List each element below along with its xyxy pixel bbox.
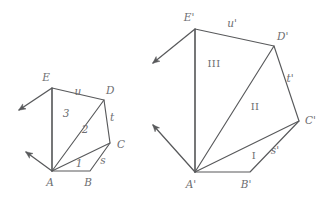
left-pentagon-group: A B C D E u t s 1 2 3 — [19, 71, 125, 188]
right-vertex-label-Cp: C' — [305, 114, 316, 126]
left-region-label-3: 3 — [63, 107, 70, 119]
right-vertex-label-Ep: E' — [183, 11, 195, 23]
left-vertex-label-A: A — [45, 176, 54, 188]
right-region-label-III: III — [207, 58, 220, 69]
right-pentagon-outline — [195, 29, 299, 172]
geometry-figure: A B C D E u t s 1 2 3 A' B' C' D' E' u' — [0, 0, 329, 202]
left-vertex-label-B: B — [83, 176, 92, 188]
right-ray-from-Ap — [153, 125, 195, 172]
right-edge-label-sp: s' — [271, 144, 279, 156]
right-region-label-I: I — [252, 150, 256, 161]
right-pentagon-group: A' B' C' D' E' u' t' s' I II III — [153, 11, 316, 190]
left-vertex-label-C: C — [117, 138, 125, 150]
left-vertex-label-E: E — [41, 71, 50, 83]
left-ray-from-A — [26, 152, 52, 171]
right-ray-from-Ep — [153, 29, 195, 63]
right-vertex-label-Dp: D' — [276, 30, 288, 42]
left-edge-label-s: s — [100, 154, 106, 166]
right-edge-label-up: u' — [227, 17, 237, 29]
right-region-label-II: II — [251, 101, 260, 112]
figure-canvas: A B C D E u t s 1 2 3 A' B' C' D' E' u' — [0, 0, 329, 202]
left-edge-label-u: u — [75, 85, 82, 97]
left-edge-label-t: t — [110, 111, 115, 123]
left-ray-from-E — [19, 88, 52, 110]
right-vertex-label-Bp: B' — [240, 178, 252, 190]
right-edge-label-tp: t' — [286, 72, 293, 84]
left-region-label-2: 2 — [81, 123, 89, 135]
left-region-label-1: 1 — [76, 157, 83, 169]
left-vertex-label-D: D — [105, 84, 115, 96]
right-vertex-label-Ap: A' — [185, 178, 196, 190]
